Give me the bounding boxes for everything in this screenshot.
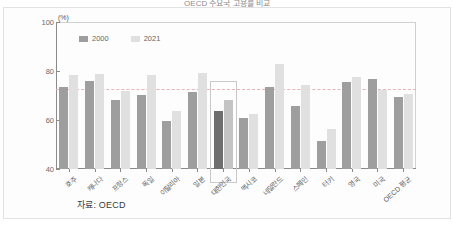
x-tick-mark (146, 169, 147, 172)
bar-2000 (214, 111, 223, 169)
bar-2021 (224, 100, 233, 169)
bar-group (342, 22, 361, 169)
bar-group (85, 22, 104, 169)
bar-2021 (352, 77, 361, 169)
bar-2000 (137, 95, 146, 169)
bar-2021 (198, 73, 207, 169)
x-tick-mark (120, 169, 121, 172)
bar-2021 (172, 111, 181, 169)
x-tick-mark (172, 169, 173, 172)
bar-group (317, 22, 336, 169)
bar-group (239, 22, 258, 169)
bar-2021 (404, 94, 413, 169)
bar-group (368, 22, 387, 169)
bar-group (59, 22, 78, 169)
bar-2021 (69, 75, 78, 169)
y-tick-mark (56, 169, 60, 170)
y-tick-label: 40 (32, 165, 54, 174)
bar-2021 (249, 114, 258, 169)
x-tick-mark (377, 169, 378, 172)
x-tick-mark (95, 169, 96, 172)
bar-2000 (59, 87, 68, 169)
bar-group (214, 22, 233, 169)
x-tick-mark (249, 169, 250, 172)
x-tick-mark (275, 169, 276, 172)
bar-2021 (301, 85, 310, 169)
bar-2021 (327, 129, 336, 169)
y-tick-label: 100 (32, 18, 54, 27)
x-tick-mark (300, 169, 301, 172)
bar-group (394, 22, 413, 169)
bar-2021 (147, 75, 156, 169)
bar-2000 (111, 100, 120, 169)
bar-2000 (368, 79, 377, 169)
y-tick-label: 80 (32, 67, 54, 76)
bar-group (137, 22, 156, 169)
x-tick-mark (223, 169, 224, 172)
x-tick-mark (352, 169, 353, 172)
y-tick-label: 60 (32, 116, 54, 125)
figure-card: (%) 100806040 2000 2021 호주캐나다프랑스독일이탈리아일본… (3, 7, 451, 219)
bar-2000 (162, 121, 171, 169)
x-tick-mark (69, 169, 70, 172)
y-axis: 100806040 (28, 8, 54, 225)
x-tick-mark (197, 169, 198, 172)
bar-2000 (85, 81, 94, 169)
bar-2021 (121, 91, 130, 169)
x-tick-mark (326, 169, 327, 172)
figure-root: OECD 주요국 고용률 비교 (%) 100806040 2000 2021 (0, 0, 454, 225)
figure-title: OECD 주요국 고용률 비교 (0, 0, 454, 7)
source-note: 자료: OECD (77, 198, 126, 211)
x-tick-mark (403, 169, 404, 172)
bar-group (111, 22, 130, 169)
bar-2021 (275, 64, 284, 169)
bar-group (265, 22, 284, 169)
bar-group (162, 22, 181, 169)
bar-group (291, 22, 310, 169)
bar-group (188, 22, 207, 169)
bar-2021 (378, 90, 387, 169)
y-axis-unit-label: (%) (58, 14, 69, 21)
bar-2000 (265, 87, 274, 169)
bar-2000 (394, 97, 403, 169)
bar-2021 (95, 74, 104, 169)
bar-2000 (342, 82, 351, 169)
